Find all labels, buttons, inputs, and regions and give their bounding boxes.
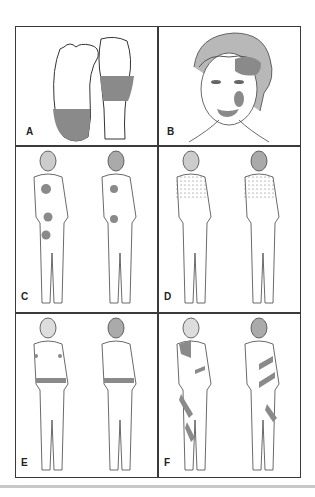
- panel-d: D: [159, 147, 301, 312]
- panel-a: A: [16, 27, 157, 145]
- panel-b: B: [159, 27, 301, 145]
- panel-label-e: E: [21, 457, 28, 468]
- body-illustration-f: [159, 314, 301, 478]
- panel-e: E: [16, 314, 157, 478]
- panel-label-a: A: [26, 126, 33, 137]
- body-illustration-c: [16, 147, 157, 312]
- body-illustration-e: [16, 314, 157, 478]
- body-illustration-d: [159, 147, 301, 312]
- panel-c: C: [16, 147, 157, 312]
- feet-illustration: [16, 27, 157, 145]
- panel-label-b: B: [167, 126, 174, 137]
- panel-label-c: C: [21, 291, 28, 302]
- panel-label-f: F: [164, 457, 170, 468]
- bottom-rule: [0, 485, 315, 488]
- face-illustration: [159, 27, 301, 145]
- panel-f: F: [159, 314, 301, 478]
- panel-label-d: D: [164, 291, 171, 302]
